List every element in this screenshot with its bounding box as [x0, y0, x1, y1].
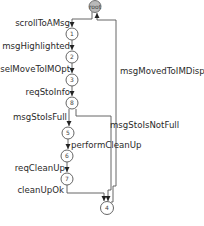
edge-7-4	[67, 185, 107, 201]
node-root[interactable]: root	[89, 1, 102, 13]
node-1[interactable]: 1	[66, 28, 78, 40]
edge-label-msgmovedtoimdisp: msgMovedToIMDisp	[120, 66, 204, 76]
edge-2-3	[70, 63, 75, 73]
edge-4-root	[95, 13, 117, 202]
svg-text:root: root	[89, 3, 102, 10]
edge-label-msgstoisfull: msgStoIsFull	[13, 112, 67, 122]
edge-label-scrolltoamsg: scrollToAMsg	[15, 18, 70, 28]
edge-8-5	[67, 109, 72, 126]
state-diagram: root 1 2 3 8 5 6 7 4 scrollToAMsg msgHig…	[0, 0, 204, 226]
svg-text:1: 1	[70, 30, 74, 37]
edge-label-reqcleanup: reqCleanUp	[15, 163, 65, 173]
svg-text:7: 7	[65, 175, 69, 182]
edge-6-7	[65, 162, 70, 172]
svg-text:2: 2	[70, 53, 74, 60]
arrowhead-icon	[106, 196, 111, 201]
arrowhead-icon	[70, 45, 75, 50]
edge-8-4	[76, 109, 111, 201]
edge-label-selmovetoimopt: selMoveToIMOpt	[0, 64, 70, 74]
svg-text:6: 6	[65, 152, 69, 159]
edge-3-8	[70, 86, 75, 96]
arrowhead-icon	[70, 91, 75, 96]
node-5[interactable]: 5	[62, 127, 74, 139]
node-2[interactable]: 2	[66, 51, 78, 63]
arrowhead-icon	[70, 68, 75, 73]
arrowhead-icon	[95, 13, 100, 18]
edge-root-1	[70, 12, 93, 27]
edge-label-performcleanup: performCleanUp	[71, 140, 141, 150]
edge-label-reqstoinfo: reqStoInfo	[26, 87, 70, 97]
arrowhead-icon	[65, 167, 70, 172]
node-3[interactable]: 3	[66, 74, 78, 86]
svg-text:4: 4	[105, 204, 109, 211]
arrowhead-icon	[102, 196, 107, 201]
edge-1-2	[70, 40, 75, 50]
svg-text:3: 3	[70, 76, 74, 83]
edge-label-cleanupok: cleanUpOk	[17, 185, 64, 195]
svg-text:8: 8	[70, 99, 74, 106]
node-4[interactable]: 4	[101, 202, 114, 215]
node-6[interactable]: 6	[61, 150, 73, 162]
arrowhead-icon	[67, 121, 72, 126]
edge-5-6	[66, 139, 71, 149]
edge-label-msghighlighted: msgHighlighted	[2, 41, 70, 51]
node-7[interactable]: 7	[61, 173, 73, 185]
svg-text:5: 5	[66, 129, 70, 136]
node-8[interactable]: 8	[66, 97, 78, 109]
arrowhead-icon	[70, 22, 75, 27]
arrowhead-icon	[66, 144, 71, 149]
edge-label-msgstoisnotfull: msgStoIsNotFull	[110, 120, 179, 130]
